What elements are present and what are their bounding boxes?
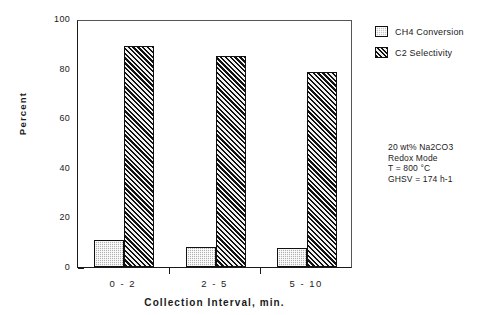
legend-item-label: CH4 Conversion [395,27,464,37]
x-axis-tick-marks [77,268,352,275]
annotation-line: Redox Mode [388,153,480,164]
chart-legend: CH4 ConversionC2 Selectivity [375,26,479,68]
legend-swatch-icon [375,47,388,58]
legend-item: C2 Selectivity [375,47,479,58]
chart-annotation: 20 wt% Na2CO3Redox ModeT = 800 °CGHSV = … [388,142,480,184]
bar-c2-selectivity [124,46,154,267]
y-axis-tick-label: 80 [40,65,70,74]
y-axis-title: Percent [17,69,28,159]
x-axis-tick [260,268,261,274]
y-axis-tick-label: 60 [40,114,70,123]
y-axis-tick-label: 100 [40,15,70,24]
x-axis-title: Collection Interval, min. [77,297,352,308]
legend-item-label: C2 Selectivity [395,48,452,58]
bar-c2-selectivity [307,72,337,267]
y-axis-tick-labels: 020406080100 [38,0,70,315]
legend-item: CH4 Conversion [375,26,479,37]
x-axis-tick [169,268,170,274]
y-axis-tick-label: 0 [40,263,70,272]
chart-figure: Percent 020406080100 0 - 22 - 55 - 10 Co… [0,0,481,315]
y-axis-tick-label: 20 [40,213,70,222]
bar-ch4-conversion [94,240,124,267]
bar-ch4-conversion [277,248,307,267]
annotation-line: T = 800 °C [388,163,480,174]
annotation-line: GHSV = 174 h-1 [388,174,480,185]
legend-swatch-icon [375,26,388,37]
x-axis-tick-label: 5 - 10 [260,278,352,289]
plot-area [77,20,352,268]
x-axis-tick-label: 0 - 2 [77,278,169,289]
annotation-line: 20 wt% Na2CO3 [388,142,480,153]
y-axis-tick-label: 40 [40,164,70,173]
x-axis-tick-label: 2 - 5 [169,278,261,289]
bar-c2-selectivity [216,56,246,267]
bar-ch4-conversion [186,247,216,267]
